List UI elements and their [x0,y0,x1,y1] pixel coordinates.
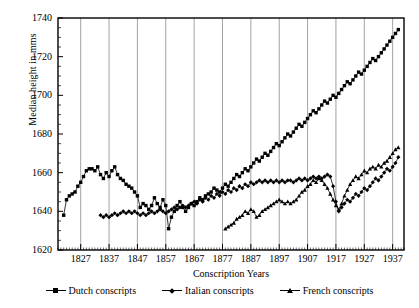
series-marker [328,192,332,196]
series-marker [289,134,292,137]
series-marker [360,72,363,75]
x-tick-label: 1937 [376,254,410,264]
series-marker [164,204,167,207]
series-marker [388,40,391,43]
series-marker [221,186,224,189]
y-tick-label: 1700 [18,90,52,100]
series-marker [329,98,332,101]
legend-label: French conscripts [303,285,374,296]
series-marker [300,125,303,128]
series-marker [306,117,309,120]
series-marker [295,127,298,130]
y-tick-label: 1660 [18,168,52,178]
series-marker [62,214,65,217]
series-marker [110,169,113,172]
series-marker [280,140,283,143]
series-marker [122,179,125,182]
series-marker [249,165,252,168]
series-marker [391,36,394,39]
series-marker [343,84,346,87]
series-marker [209,190,212,193]
series-marker [76,185,79,188]
series-marker [368,61,371,64]
series-marker [144,204,147,207]
series-marker [382,47,385,50]
series-marker [303,121,306,124]
series-marker [317,107,320,110]
series-marker [192,204,195,207]
series-line-2 [225,148,398,229]
series-marker [340,88,343,91]
series-marker [337,92,340,95]
series-marker [79,181,82,184]
series-marker [272,146,275,149]
chart-legend: Dutch conscriptsItalian conscriptsFrench… [0,285,419,296]
y-tick-label: 1640 [18,206,52,216]
y-tick-label: 1620 [18,245,52,255]
series-marker [363,69,366,72]
series-marker [396,145,400,149]
series-marker [73,190,76,193]
series-marker [93,169,96,172]
series-marker [342,194,346,198]
series-marker [184,210,187,213]
series-marker [243,209,247,213]
series-marker [286,199,290,203]
series-marker [320,103,323,106]
series-marker [105,171,108,174]
series-marker [380,51,383,54]
series-marker [376,163,380,167]
series-marker [99,173,102,176]
series-marker [156,202,159,205]
series-marker [260,156,263,159]
series-marker [258,159,261,162]
series-marker [136,194,139,197]
series-marker [232,177,235,180]
legend-item: French conscripts [280,285,374,296]
series-marker [362,169,366,173]
series-marker [283,136,286,139]
series-marker [396,155,400,159]
y-tick-label: 1680 [18,129,52,139]
legend-label: Italian conscripts [185,285,254,296]
series-marker [314,111,317,114]
series-marker [377,55,380,58]
legend-item: Dutch conscripts [46,285,137,296]
series-marker [345,188,349,192]
series-marker [365,65,368,68]
series-marker [107,175,110,178]
series-marker [348,82,351,85]
series-marker [252,161,255,164]
series-marker [246,169,249,172]
series-marker [397,28,400,31]
legend-item: Italian conscripts [162,285,254,296]
series-marker [331,198,335,202]
series-marker [241,171,244,174]
series-marker [161,198,164,201]
series-marker [394,32,397,35]
legend-label: Dutch conscripts [69,285,137,296]
series-marker [331,184,335,188]
series-marker [354,174,358,178]
triangle-marker-icon [280,286,300,295]
series-marker [116,173,119,176]
series-marker [170,215,173,218]
series-marker [96,165,99,168]
y-tick-label: 1720 [18,52,52,62]
series-marker [266,154,269,157]
square-marker-icon [46,286,66,295]
series-marker [226,185,229,188]
series-marker [334,96,337,99]
x-axis-label: Conscription Years [58,268,404,279]
chart-figure: Median height in mms 1620164016601680170… [0,0,419,308]
series-marker [167,227,170,230]
series-marker [277,198,281,202]
series-marker [351,78,354,81]
series-marker [292,130,295,133]
series-marker [371,165,375,169]
series-marker [249,207,253,211]
series-marker [309,113,312,116]
series-marker [278,144,281,147]
series-marker [150,204,153,207]
series-marker [82,175,85,178]
